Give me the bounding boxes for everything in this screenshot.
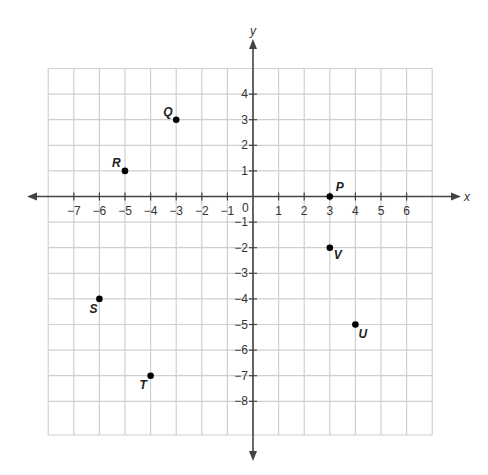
x-tick-label: −7 — [67, 204, 81, 218]
y-tick-label: 4 — [241, 87, 248, 101]
y-tick-label: −4 — [234, 292, 248, 306]
x-tick-label: 6 — [403, 204, 410, 218]
x-tick-label: 5 — [378, 204, 385, 218]
point-label: R — [112, 156, 121, 170]
x-axis-left-arrow-icon — [27, 193, 37, 201]
y-tick-label: −5 — [234, 318, 248, 332]
x-tick-label: −6 — [93, 204, 107, 218]
point-label: T — [140, 378, 149, 392]
y-tick-label: 3 — [241, 113, 248, 127]
point-label: V — [334, 248, 343, 262]
y-axis-up-arrow-icon — [249, 39, 257, 49]
point-marker-icon — [327, 244, 334, 251]
x-tick-label: −1 — [221, 204, 235, 218]
x-tick-label: −3 — [169, 204, 183, 218]
x-tick-label: 3 — [326, 204, 333, 218]
point-marker-icon — [122, 168, 129, 175]
y-tick-label: −2 — [234, 241, 248, 255]
point-label: Q — [163, 105, 173, 119]
point-marker-icon — [147, 372, 154, 379]
y-tick-label: −3 — [234, 266, 248, 280]
x-tick-label: 4 — [352, 204, 359, 218]
x-tick-label: −5 — [118, 204, 132, 218]
y-axis-down-arrow-icon — [249, 451, 257, 461]
x-tick-label: 2 — [301, 204, 308, 218]
point-v: V — [327, 244, 343, 261]
y-tick-label: −8 — [234, 394, 248, 408]
x-axis-right-arrow-icon — [451, 193, 461, 201]
y-tick-label: 1 — [241, 164, 248, 178]
origin-label: 0 — [242, 201, 249, 215]
axes: xy0 — [27, 24, 471, 461]
x-axis-label: x — [463, 190, 471, 204]
x-tick-label: −4 — [144, 204, 158, 218]
point-marker-icon — [173, 116, 180, 123]
y-axis-label: y — [249, 24, 257, 38]
y-tick-label: 2 — [241, 138, 248, 152]
point-label: P — [336, 180, 345, 194]
y-tick-label: −1 — [234, 215, 248, 229]
y-tick-label: −6 — [234, 343, 248, 357]
point-marker-icon — [327, 193, 334, 200]
coordinate-plane: xy0 −7−6−5−4−3−2−11234564321−1−2−3−4−5−6… — [0, 0, 488, 475]
x-tick-label: −2 — [195, 204, 209, 218]
y-tick-label: −7 — [234, 369, 248, 383]
x-tick-label: 1 — [275, 204, 282, 218]
point-label: S — [89, 302, 97, 316]
point-label: U — [358, 327, 367, 341]
